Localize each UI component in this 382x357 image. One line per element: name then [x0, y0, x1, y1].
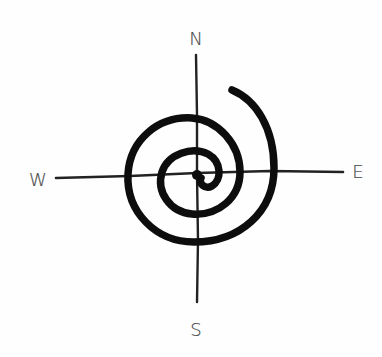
compass-spiral-diagram: N W E S [0, 0, 382, 357]
compass-spiral-drawing [0, 0, 382, 357]
spiral [128, 90, 274, 242]
west-label: W [29, 171, 47, 189]
east-label: E [352, 163, 363, 181]
spiral-center-dot [192, 170, 202, 180]
south-label: S [190, 321, 201, 339]
north-label: N [189, 30, 202, 48]
